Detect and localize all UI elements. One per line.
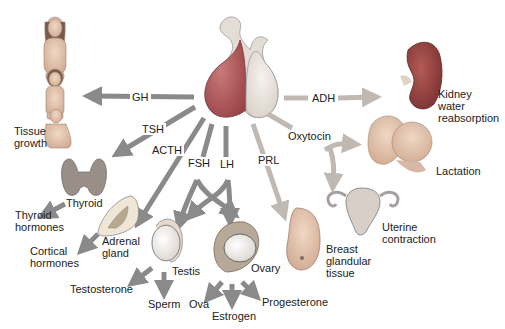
- ova-label: Ova: [189, 298, 209, 310]
- uterine-contraction-label: Uterine contraction: [382, 221, 436, 245]
- progesterone-label: Progesterone: [262, 296, 328, 308]
- thyroid-hormones-label: Thyroid hormones: [15, 209, 64, 233]
- lactation-icon: [368, 116, 432, 172]
- prl-label: PRL: [256, 154, 281, 166]
- fsh-to-testis: [180, 180, 197, 222]
- adrenal-gland-icon: [98, 196, 139, 236]
- tissue-growth-label: Tissue growth: [14, 125, 47, 149]
- cortical-hormones-label: Cortical hormones: [30, 245, 79, 269]
- lh-label: LH: [218, 158, 236, 170]
- diagram-canvas: [0, 0, 505, 329]
- breast-glandular-tissue-label: Breast glandular tissue: [326, 243, 371, 279]
- estrogen-label: Estrogen: [212, 310, 256, 322]
- testis-label: Testis: [172, 265, 200, 277]
- testosterone-label: Testosterone: [70, 283, 133, 295]
- testis-icon: [152, 219, 182, 262]
- thyroid-label: Thyroid: [66, 197, 103, 209]
- adrenal-gland-label: Adrenal gland: [102, 235, 140, 259]
- cortical-hormones-arrow: [84, 234, 98, 248]
- adh-label: ADH: [310, 92, 337, 104]
- testosterone-arrow: [135, 268, 152, 281]
- oxytocin-stem: [268, 114, 292, 128]
- kidney-water-reabsorption-label: Kidney water reabsorption: [438, 88, 499, 124]
- gh-label: GH: [130, 91, 151, 103]
- oxytocin-to-uterus: [330, 148, 334, 183]
- lh-to-ovary: [228, 180, 230, 218]
- ovary-label: Ovary: [251, 262, 280, 274]
- kidney-icon: [400, 42, 442, 109]
- breast-icon: [287, 208, 320, 270]
- prl-arrow: [253, 124, 283, 212]
- ova-arrow: [210, 282, 222, 296]
- fsh-label: FSH: [186, 157, 212, 169]
- lactation-label: Lactation: [436, 165, 481, 177]
- human-growth-figures-icon: [44, 17, 71, 148]
- pituitary-hormone-diagram: GH TSH ACTH FSH LH PRL ADH Oxytocin Tiss…: [0, 0, 505, 329]
- sperm-label: Sperm: [148, 298, 180, 310]
- acth-label: ACTH: [150, 144, 184, 156]
- oxytocin-label: Oxytocin: [286, 130, 333, 142]
- fsh-stem: [203, 124, 212, 157]
- progesterone-arrow: [242, 282, 254, 294]
- tsh-label: TSH: [140, 123, 166, 135]
- adh-arrow: [338, 97, 372, 98]
- thyroid-icon: [62, 159, 107, 196]
- pituitary-gland-icon: [205, 17, 278, 118]
